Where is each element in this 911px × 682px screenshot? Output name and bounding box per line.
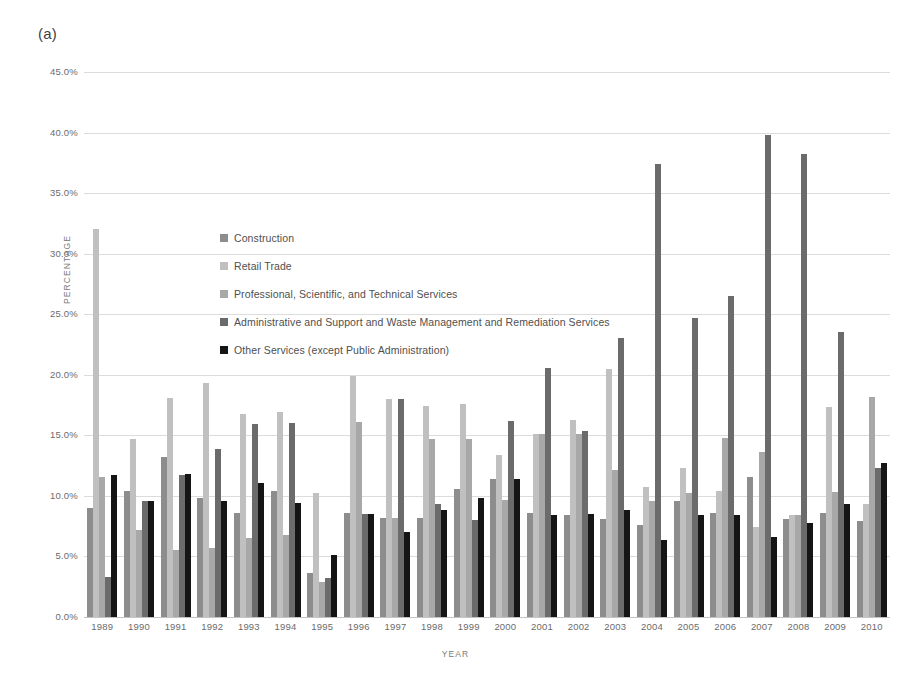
bar-group-2006 xyxy=(707,72,744,617)
bar-group-2010 xyxy=(853,72,890,617)
x-tick-label: 1989 xyxy=(84,621,121,632)
bar-group-1990 xyxy=(121,72,158,617)
y-tick-label: 45.0% xyxy=(38,66,78,77)
bar-group-2004 xyxy=(634,72,671,617)
bar xyxy=(368,514,374,617)
x-tick-label: 2004 xyxy=(634,621,671,632)
x-tick-label: 1995 xyxy=(304,621,341,632)
x-tick-label: 1996 xyxy=(340,621,377,632)
bar xyxy=(148,501,154,617)
x-tick-label: 2000 xyxy=(487,621,524,632)
bar-group-2009 xyxy=(817,72,854,617)
x-tick-label: 2005 xyxy=(670,621,707,632)
legend-item: Construction xyxy=(220,224,610,252)
x-tick-label: 2003 xyxy=(597,621,634,632)
x-tick-label: 2009 xyxy=(817,621,854,632)
x-tick-label: 1994 xyxy=(267,621,304,632)
plot-area: 0.0%5.0%10.0%15.0%20.0%25.0%30.0%35.0%40… xyxy=(84,72,890,617)
legend-label: Professional, Scientific, and Technical … xyxy=(234,288,457,300)
legend: ConstructionRetail TradeProfessional, Sc… xyxy=(220,224,610,364)
x-tick-label: 2008 xyxy=(780,621,817,632)
bar xyxy=(624,510,630,617)
x-tick-label: 2010 xyxy=(853,621,890,632)
y-axis-title: PERCENTAGE xyxy=(62,235,72,304)
x-tick-label: 1997 xyxy=(377,621,414,632)
x-tick-label: 1998 xyxy=(414,621,451,632)
bar-group-2007 xyxy=(744,72,781,617)
bar xyxy=(111,475,117,617)
bar-group-2005 xyxy=(670,72,707,617)
legend-swatch-icon xyxy=(220,262,228,270)
bar-group-1991 xyxy=(157,72,194,617)
x-tick-label: 1991 xyxy=(157,621,194,632)
bar-group-2008 xyxy=(780,72,817,617)
legend-item: Retail Trade xyxy=(220,252,610,280)
y-tick-label: 35.0% xyxy=(38,187,78,198)
bar xyxy=(588,514,594,617)
y-tick-label: 15.0% xyxy=(38,429,78,440)
figure-panel-a: (a) 0.0%5.0%10.0%15.0%20.0%25.0%30.0%35.… xyxy=(0,0,911,682)
x-tick-label: 2007 xyxy=(744,621,781,632)
y-tick-label: 20.0% xyxy=(38,369,78,380)
y-tick-label: 30.0% xyxy=(38,248,78,259)
y-tick-label: 40.0% xyxy=(38,127,78,138)
y-tick-label: 0.0% xyxy=(38,611,78,622)
x-axis-title: YEAR xyxy=(0,649,911,659)
y-tick-label: 25.0% xyxy=(38,308,78,319)
legend-item: Professional, Scientific, and Technical … xyxy=(220,280,610,308)
x-tick-label: 2002 xyxy=(560,621,597,632)
x-axis-tick-labels: 1989199019911992199319941995199619971998… xyxy=(84,621,890,632)
x-tick-label: 1999 xyxy=(450,621,487,632)
legend-swatch-icon xyxy=(220,346,228,354)
legend-label: Construction xyxy=(234,232,294,244)
bar xyxy=(258,483,264,617)
x-tick-label: 1990 xyxy=(121,621,158,632)
x-tick-label: 2006 xyxy=(707,621,744,632)
bar xyxy=(514,479,520,617)
x-tick-label: 1993 xyxy=(231,621,268,632)
bar-group-1989 xyxy=(84,72,121,617)
bar xyxy=(807,523,813,617)
bar xyxy=(478,498,484,617)
bar xyxy=(295,503,301,617)
legend-item: Other Services (except Public Administra… xyxy=(220,336,610,364)
bar xyxy=(185,474,191,617)
legend-label: Other Services (except Public Administra… xyxy=(234,344,449,356)
y-tick-label: 5.0% xyxy=(38,550,78,561)
bar xyxy=(331,555,337,617)
bar xyxy=(881,463,887,617)
bar xyxy=(441,510,447,617)
x-tick-label: 1992 xyxy=(194,621,231,632)
y-tick-label: 10.0% xyxy=(38,490,78,501)
legend-swatch-icon xyxy=(220,290,228,298)
bar xyxy=(734,515,740,617)
bar xyxy=(661,540,667,618)
panel-label: (a) xyxy=(38,25,57,42)
legend-swatch-icon xyxy=(220,318,228,326)
legend-label: Administrative and Support and Waste Man… xyxy=(234,316,610,328)
bar xyxy=(698,515,704,617)
legend-swatch-icon xyxy=(220,234,228,242)
bar xyxy=(844,504,850,617)
bar xyxy=(404,532,410,617)
bar xyxy=(771,537,777,617)
bar xyxy=(221,501,227,617)
x-tick-label: 2001 xyxy=(524,621,561,632)
legend-label: Retail Trade xyxy=(234,260,292,272)
legend-item: Administrative and Support and Waste Man… xyxy=(220,308,610,336)
gridline xyxy=(84,617,890,618)
bar xyxy=(551,515,557,617)
